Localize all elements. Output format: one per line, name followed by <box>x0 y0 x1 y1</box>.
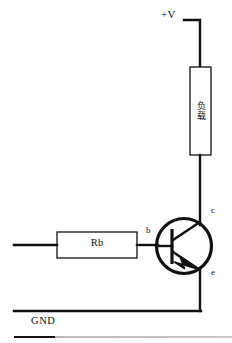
collector-terminal-label: c <box>211 206 215 215</box>
base-resistor-label: Rb <box>57 238 137 249</box>
page-bottom-rule <box>14 336 232 338</box>
base-terminal-label: b <box>146 226 151 235</box>
supply-voltage-label: +V <box>161 9 176 20</box>
ground-label: GND <box>31 316 56 327</box>
emitter-terminal-label: e <box>211 268 215 277</box>
circuit-diagram-canvas: +V GND c e b Rb 负载 <box>0 0 232 343</box>
load-label: 负载 <box>196 101 205 121</box>
schematic-drawing <box>0 0 232 343</box>
supply-rail-wire <box>184 20 200 67</box>
transistor-collector-lead <box>173 222 200 240</box>
load-label-wrap: 负载 <box>190 67 211 155</box>
emitter-arrowhead-icon <box>175 257 200 270</box>
